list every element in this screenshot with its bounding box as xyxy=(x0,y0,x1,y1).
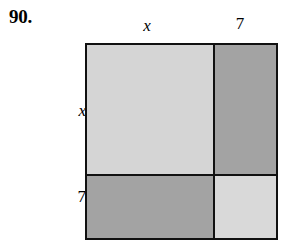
region-bottom-right-forty-nine xyxy=(215,176,276,238)
vertical-divider-line xyxy=(213,45,215,238)
area-model-square xyxy=(85,43,278,240)
top-label-7: 7 xyxy=(222,15,258,33)
region-top-right-seven-x xyxy=(215,45,276,174)
exercise-number: 90. xyxy=(9,7,32,27)
region-top-left-x-squared xyxy=(87,45,213,174)
horizontal-divider-line xyxy=(87,174,276,176)
exercise-figure-container: 90. x 7 x 7 xyxy=(0,0,290,251)
top-label-x: x xyxy=(122,17,172,35)
region-bottom-left-seven-x xyxy=(87,176,213,238)
